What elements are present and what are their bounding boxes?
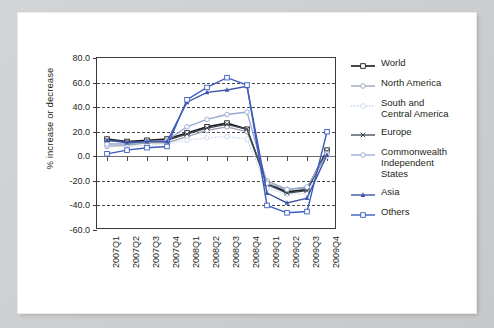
x-axis-tick-label: 2008Q1 <box>191 236 201 268</box>
legend-marker-icon <box>350 187 376 199</box>
data-point-marker <box>225 112 230 117</box>
x-axis-tick-label: 2007Q3 <box>151 236 161 268</box>
legend-item[interactable]: Others <box>350 206 474 219</box>
legend-item[interactable]: Europe <box>350 126 474 139</box>
legend-marker-icon <box>350 147 376 159</box>
data-point-marker <box>361 213 366 218</box>
data-point-marker <box>185 125 190 130</box>
x-axis-tick-label: 2009Q3 <box>311 236 321 268</box>
series-commonwealth-independent-states <box>105 110 330 192</box>
chart-figure: % increase or decrease 80.060.040.020.00… <box>18 13 476 313</box>
y-axis-tick-label: 40.0 <box>72 102 90 112</box>
x-axis-tick-label: 2009Q2 <box>291 236 301 268</box>
page-background: % increase or decrease 80.060.040.020.00… <box>0 0 494 328</box>
y-axis-tick-label: -40.0 <box>69 200 90 210</box>
chart-legend: WorldNorth AmericaSouth andCentral Ameri… <box>350 57 474 226</box>
data-point-marker <box>205 85 210 90</box>
data-point-marker <box>105 142 110 147</box>
data-point-marker <box>245 83 250 88</box>
legend-label: Asia <box>381 186 399 197</box>
legend-item[interactable]: North America <box>350 77 474 90</box>
x-axis-tick-label: 2008Q3 <box>231 236 241 268</box>
data-point-marker <box>325 129 330 134</box>
series-north-america <box>105 125 330 192</box>
data-point-marker <box>105 152 110 157</box>
legend-label: Europe <box>381 126 412 137</box>
x-axis-tick-label: 2009Q4 <box>331 236 341 268</box>
legend-marker-icon <box>350 78 376 90</box>
legend-marker-icon <box>350 207 376 219</box>
y-axis-label: % increase or decrease <box>44 44 55 194</box>
data-point-marker <box>145 145 150 150</box>
data-point-marker <box>305 209 310 214</box>
data-point-marker <box>361 64 366 69</box>
legend-label: World <box>381 57 406 68</box>
x-axis-tick-label: 2007Q1 <box>111 236 121 268</box>
x-axis-tick-label: 2007Q4 <box>171 236 181 268</box>
legend-label: CommonwealthIndependentStates <box>381 146 447 179</box>
data-point-marker <box>125 148 130 153</box>
x-axis-tick-label: 2007Q2 <box>131 236 141 268</box>
legend-item[interactable]: Asia <box>350 186 474 199</box>
data-point-marker <box>165 144 170 149</box>
data-point-marker <box>205 117 210 122</box>
legend-label: Others <box>381 206 410 217</box>
x-axis-tick-label: 2009Q1 <box>271 236 281 268</box>
legend-marker-icon <box>350 98 376 110</box>
y-axis-tick-label: -20.0 <box>69 176 90 186</box>
data-point-marker <box>245 137 250 142</box>
series-europe <box>105 122 330 195</box>
y-axis-tick-label: -60.0 <box>69 225 90 235</box>
data-point-marker <box>265 203 270 208</box>
y-axis-tick-label: 80.0 <box>72 53 90 63</box>
legend-item[interactable]: CommonwealthIndependentStates <box>350 146 474 179</box>
data-point-marker <box>185 138 190 143</box>
legend-label: South andCentral America <box>381 97 449 119</box>
x-axis-tick-label: 2008Q4 <box>251 236 261 268</box>
data-point-marker <box>361 104 366 109</box>
y-axis-tick-label: 0.0 <box>77 151 90 161</box>
legend-item[interactable]: World <box>350 57 474 70</box>
data-point-marker <box>245 110 250 115</box>
legend-marker-icon <box>350 58 376 70</box>
y-axis-tick-label: 60.0 <box>72 78 90 88</box>
legend-item[interactable]: South andCentral America <box>350 97 474 119</box>
series-lines <box>97 58 337 230</box>
series-world <box>105 121 330 194</box>
data-point-marker <box>225 134 230 139</box>
data-point-marker <box>285 211 290 216</box>
data-point-marker <box>361 153 366 158</box>
data-point-marker <box>225 75 230 80</box>
data-point-marker <box>305 185 310 190</box>
figure-paper: % increase or decrease 80.060.040.020.00… <box>18 13 476 313</box>
plot-area: 80.060.040.020.00.0-20.0-40.0-60.0 2007Q… <box>96 57 336 229</box>
x-axis-tick-label: 2008Q2 <box>211 236 221 268</box>
data-point-marker <box>185 97 190 102</box>
y-axis-tick <box>93 230 97 231</box>
data-point-marker <box>361 84 366 89</box>
data-point-marker <box>285 187 290 192</box>
legend-marker-icon <box>350 127 376 139</box>
data-point-marker <box>205 136 210 141</box>
y-axis-tick-label: 20.0 <box>72 127 90 137</box>
legend-label: North America <box>381 77 441 88</box>
